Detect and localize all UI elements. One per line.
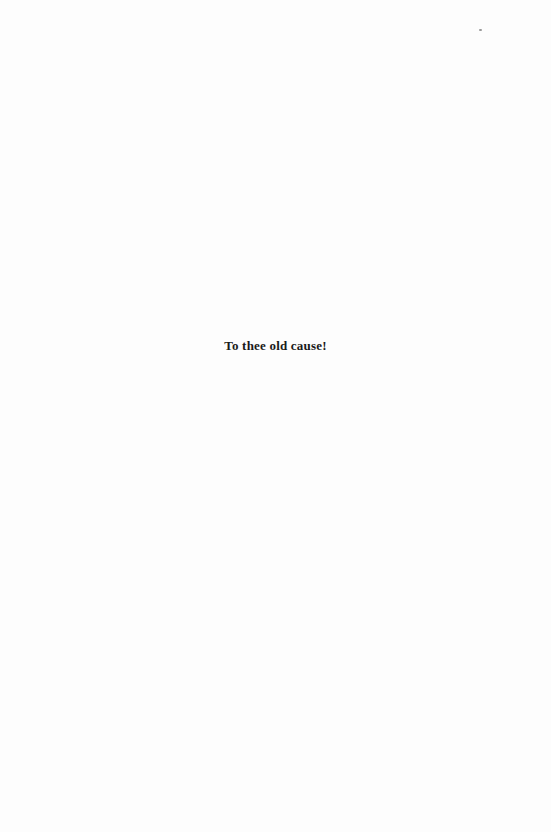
dedication-text: To thee old cause!	[0, 338, 551, 354]
document-page: To thee old cause!	[0, 0, 551, 832]
page-speck	[479, 29, 482, 31]
